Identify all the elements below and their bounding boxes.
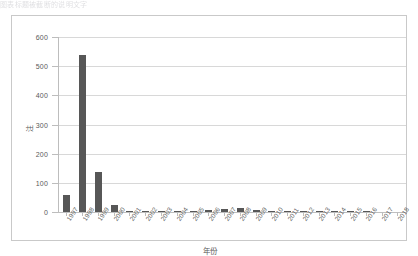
y-axis-tick	[52, 125, 58, 126]
y-axis-tick-label: 0	[44, 209, 48, 216]
bar-slot	[106, 37, 122, 212]
x-label-slot: 2008	[232, 216, 248, 244]
bar-slot	[122, 37, 138, 212]
y-axis-tick	[52, 37, 58, 38]
x-label-slot: 2011	[280, 216, 296, 244]
x-axis-title: 年份	[12, 245, 408, 256]
x-label-slot: 2003	[154, 216, 170, 244]
bar-slot	[232, 37, 248, 212]
x-label-slot: 2004	[169, 216, 185, 244]
x-label-slot: 2018	[390, 216, 406, 244]
bar-slot	[374, 37, 390, 212]
x-label-slot: 1997	[59, 216, 75, 244]
y-axis-tick	[52, 66, 58, 67]
x-label-slot: 2016	[359, 216, 375, 244]
y-axis-tick-label: 400	[36, 92, 48, 99]
x-label-slot: 2000	[106, 216, 122, 244]
bar-slot	[311, 37, 327, 212]
bar-series	[59, 37, 406, 212]
bar-slot	[217, 37, 233, 212]
x-label-slot: 2017	[374, 216, 390, 244]
x-axis-labels: 1997199819992000200120022003200420052006…	[59, 216, 406, 244]
bar-slot	[169, 37, 185, 212]
bar-slot	[327, 37, 343, 212]
bar-slot	[264, 37, 280, 212]
bar-slot	[75, 37, 91, 212]
bar	[95, 172, 102, 212]
x-label-slot: 2005	[185, 216, 201, 244]
bar-slot	[280, 37, 296, 212]
bar-slot	[185, 37, 201, 212]
y-axis-tick-label: 600	[36, 34, 48, 41]
x-label-slot: 2006	[201, 216, 217, 244]
y-axis-title: 注	[24, 125, 34, 132]
x-label-slot: 2015	[343, 216, 359, 244]
x-label-slot: 2007	[217, 216, 233, 244]
x-label-slot: 2013	[311, 216, 327, 244]
x-label-slot: 1999	[91, 216, 107, 244]
bar-slot	[59, 37, 75, 212]
y-axis-tick-label: 200	[36, 150, 48, 157]
bar	[79, 55, 86, 213]
x-label-slot: 2010	[264, 216, 280, 244]
bar-slot	[343, 37, 359, 212]
x-label-slot: 2009	[248, 216, 264, 244]
y-axis-tick	[52, 183, 58, 184]
bar-slot	[248, 37, 264, 212]
y-axis-tick	[52, 212, 58, 213]
bar-slot	[201, 37, 217, 212]
bar-slot	[359, 37, 375, 212]
x-label-slot: 1998	[75, 216, 91, 244]
bar-slot	[390, 37, 406, 212]
x-label-slot: 2001	[122, 216, 138, 244]
chart-frame: 1997199819992000200120022003200420052006…	[11, 15, 407, 241]
x-label-slot: 2002	[138, 216, 154, 244]
truncated-top-caption: 图表标题被截断的说明文字	[0, 0, 418, 9]
bar-slot	[154, 37, 170, 212]
y-axis-tick-label: 300	[36, 121, 48, 128]
y-axis-tick	[52, 154, 58, 155]
x-label-slot: 2014	[327, 216, 343, 244]
x-label-slot: 2012	[295, 216, 311, 244]
y-axis-tick	[52, 95, 58, 96]
bar-slot	[138, 37, 154, 212]
bar-slot	[91, 37, 107, 212]
bar-slot	[295, 37, 311, 212]
y-axis-tick-label: 100	[36, 179, 48, 186]
y-axis-tick-label: 500	[36, 63, 48, 70]
